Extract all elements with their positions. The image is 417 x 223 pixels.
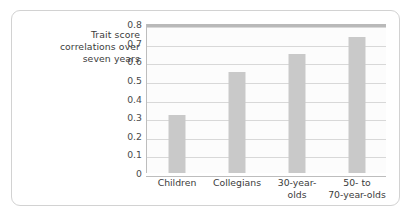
y-axis-tick-label: 0.3 (102, 112, 142, 123)
bar (289, 54, 306, 173)
x-axis-category-label: 50- to70-year-olds (328, 177, 386, 200)
y-axis-tick-label: 0.5 (102, 74, 142, 85)
y-axis-tick-label: 0.7 (102, 37, 142, 48)
x-axis-category-label-line: 70-year-olds (328, 189, 386, 201)
bar-slot (207, 27, 267, 173)
x-axis-category-label-line: Collegians (213, 177, 261, 189)
x-axis-category-labels: ChildrenCollegians30-year-olds50- to70-y… (147, 177, 387, 209)
y-axis-tick-label: 0.2 (102, 130, 142, 141)
bar-slot (267, 27, 327, 173)
x-axis-category-label-line: Children (158, 177, 197, 189)
bar (169, 115, 186, 173)
bar-slot (327, 27, 387, 173)
bar-series (147, 27, 386, 173)
x-axis-category-label: 30-year-olds (278, 177, 317, 200)
y-axis-tick-label: 0.1 (102, 149, 142, 160)
y-axis-tick-label: 0.4 (102, 93, 142, 104)
y-axis-tick-label: 0.6 (102, 56, 142, 67)
x-axis-category-label: Children (158, 177, 197, 189)
plot-area (146, 24, 386, 173)
y-axis-tick-label: 0 (102, 168, 142, 179)
x-axis-category-label: Collegians (213, 177, 261, 189)
bar-slot (147, 27, 207, 173)
x-axis-category-label-line: olds (278, 189, 317, 201)
y-axis-tick-label: 0.8 (102, 19, 142, 30)
x-axis-category-label-line: 50- to (328, 177, 386, 189)
bar (229, 72, 246, 173)
bar (349, 37, 366, 173)
figure-card: Trait score correlations over seven year… (11, 10, 400, 206)
x-axis-category-label-line: 30-year- (278, 177, 317, 189)
